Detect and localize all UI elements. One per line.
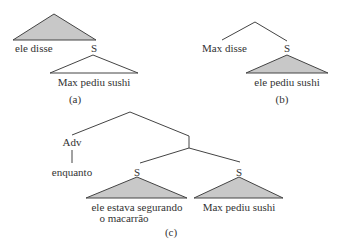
label-enquanto: enquanto: [52, 166, 92, 178]
label-s-right-c: S: [236, 166, 242, 178]
branch-right: [255, 22, 287, 41]
branch-right-s: [189, 148, 240, 162]
label-s-node-a: S: [91, 42, 97, 54]
branch-root-right: [130, 112, 189, 136]
label-s-left-c: S: [134, 166, 140, 178]
caption-b: (b): [276, 93, 289, 105]
label-ele-disse: ele disse: [15, 42, 53, 54]
label-ele-pediu-sushi: ele pediu sushi: [254, 76, 319, 88]
branch-root-adv: [72, 112, 130, 135]
shaded-triangle-max-pediu-sushi: [194, 177, 283, 198]
label-o-macarrao: o macarrão: [99, 212, 148, 224]
label-adv: Adv: [63, 136, 82, 148]
panel-c-tree: [72, 112, 283, 198]
label-max-disse: Max disse: [202, 42, 247, 54]
shaded-triangle-ele-pediu-sushi: [246, 55, 328, 73]
branch-left: [222, 22, 255, 40]
label-max-pediu-sushi-c: Max pediu sushi: [203, 201, 276, 213]
caption-a: (a): [69, 93, 81, 105]
unshaded-triangle-max-pediu-sushi: [50, 55, 138, 73]
caption-c: (c): [165, 226, 177, 238]
branch-left-s: [140, 148, 189, 163]
label-s-node-b: S: [284, 42, 290, 54]
shaded-triangle-ele-estava-segurando: [86, 177, 187, 198]
label-max-pediu-sushi-a: Max pediu sushi: [58, 76, 131, 88]
shaded-triangle-ele-disse: [13, 14, 96, 40]
